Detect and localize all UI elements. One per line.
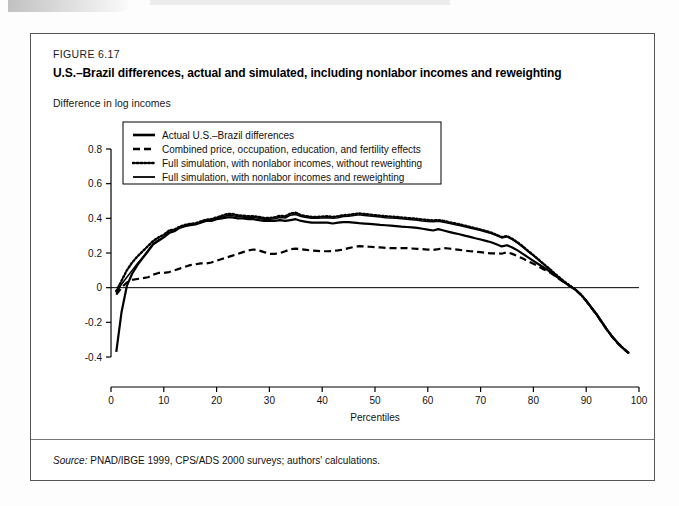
source-label: Source:	[53, 455, 87, 466]
legend-label-3: Full simulation, with nonlabor incomes a…	[162, 172, 404, 183]
x-tick-label: 30	[264, 395, 276, 406]
source-text: PNAD/IBGE 1999, CPS/ADS 2000 surveys; au…	[90, 455, 380, 466]
series-line-0	[116, 217, 628, 352]
y-tick-label: 0	[96, 282, 102, 293]
y-axis-caption: Difference in log incomes	[53, 97, 171, 109]
y-tick-label: 0.6	[88, 178, 102, 189]
figure-number: FIGURE 6.17	[53, 48, 120, 60]
x-tick-label: 80	[528, 395, 540, 406]
y-tick-label: -0.4	[85, 352, 103, 363]
line-chart: -0.4-0.200.20.40.60.80102030405060708090…	[31, 114, 656, 449]
scan-artifact-top	[150, 0, 450, 5]
figure-title: U.S.–Brazil differences, actual and simu…	[53, 66, 562, 80]
series-line-3	[116, 215, 628, 353]
x-tick-label: 70	[475, 395, 487, 406]
y-tick-label: -0.2	[85, 317, 103, 328]
series-line-2	[116, 213, 628, 353]
x-tick-label: 100	[631, 395, 648, 406]
y-tick-label: 0.2	[88, 248, 102, 259]
page-canvas: FIGURE 6.17 U.S.–Brazil differences, act…	[0, 0, 679, 506]
x-axis-label: Percentiles	[350, 412, 399, 423]
y-tick-label: 0.8	[88, 144, 102, 155]
figure-container: FIGURE 6.17 U.S.–Brazil differences, act…	[30, 33, 655, 481]
plot-area: -0.4-0.200.20.40.60.80102030405060708090…	[31, 114, 656, 449]
scan-artifact-top-left	[8, 0, 128, 12]
x-tick-label: 40	[317, 395, 329, 406]
legend-label-1: Combined price, occupation, education, a…	[162, 144, 421, 155]
legend-label-2: Full simulation, with nonlabor incomes, …	[162, 158, 422, 169]
source-note: Source: PNAD/IBGE 1999, CPS/ADS 2000 sur…	[53, 455, 380, 466]
x-tick-label: 60	[422, 395, 434, 406]
y-tick-label: 0.4	[88, 213, 102, 224]
x-tick-label: 20	[211, 395, 223, 406]
x-tick-label: 50	[369, 395, 381, 406]
x-tick-label: 10	[158, 395, 170, 406]
footer-divider	[31, 439, 654, 440]
legend-label-0: Actual U.S.–Brazil differences	[162, 130, 294, 141]
series-line-1	[116, 246, 628, 353]
x-tick-label: 90	[581, 395, 593, 406]
x-tick-label: 0	[108, 395, 114, 406]
